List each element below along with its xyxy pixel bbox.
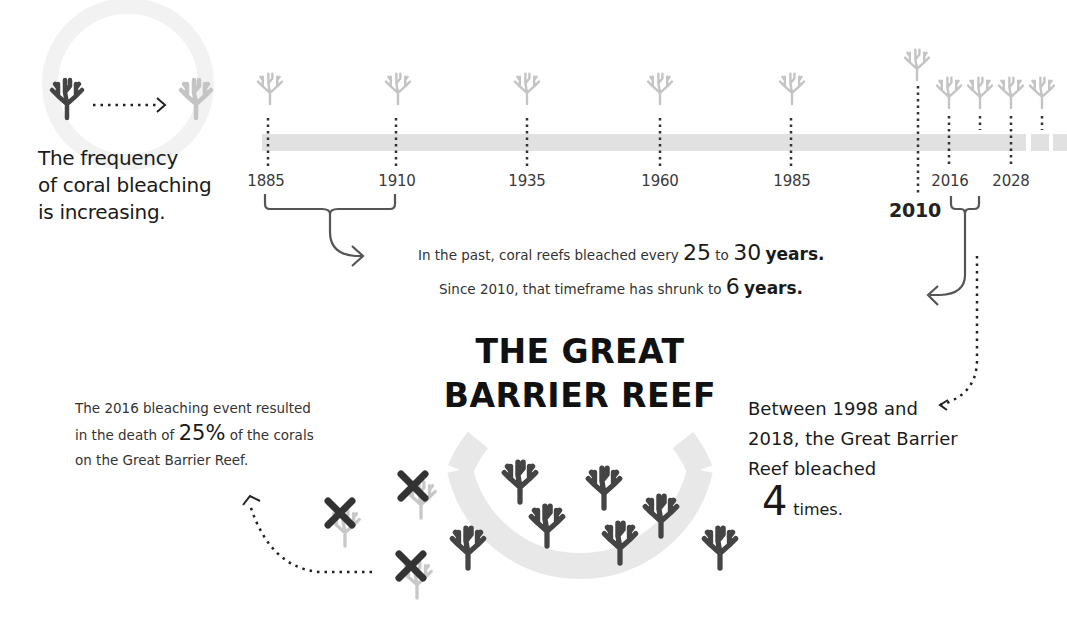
tick-label: 1935: [508, 172, 545, 190]
note-text: in the death of: [75, 427, 174, 443]
intro-line: of coral bleaching: [38, 172, 211, 199]
tick-label: 2016: [931, 172, 968, 190]
tick-label: 1885: [247, 172, 284, 190]
page-title: THE GREAT BARRIER REEF: [430, 330, 730, 418]
tick-label: 1985: [773, 172, 810, 190]
message-text: to: [715, 247, 729, 263]
note-number: 4: [762, 478, 787, 524]
tick-label: 1910: [378, 172, 415, 190]
timeline-coral-icons: [258, 50, 1054, 108]
title-line: THE GREAT: [430, 330, 730, 374]
dotted-arrow-to-right-note: [940, 256, 977, 410]
note-line: Between 1998 and: [748, 394, 958, 424]
tick-label: 1960: [641, 172, 678, 190]
infographic-graphics: [0, 0, 1067, 641]
tick-label: 2028: [992, 172, 1029, 190]
highlight-year-label: 2010: [889, 199, 941, 221]
message-text: Since 2010, that timeframe has shrunk to: [439, 281, 721, 297]
timeline-bar: [262, 134, 1067, 151]
message-line-1: In the past, coral reefs bleached every …: [418, 240, 825, 265]
message-text: In the past, coral reefs bleached every: [418, 247, 679, 263]
note-text: times.: [793, 500, 843, 519]
dotted-arrow-icon: [93, 98, 165, 112]
title-line: BARRIER REEF: [430, 374, 730, 418]
note-line: on the Great Barrier Reef.: [75, 448, 314, 473]
intro-line: The frequency: [38, 145, 211, 172]
message-number: 6: [726, 274, 740, 299]
message-text: years.: [744, 278, 803, 298]
dead-coral-group: [328, 474, 435, 598]
intro-text: The frequency of coral bleaching is incr…: [38, 145, 211, 226]
dotted-arrow-to-left-note: [243, 496, 372, 572]
note-text: of the corals: [230, 427, 314, 443]
left-note: The 2016 bleaching event resulted in the…: [75, 396, 314, 473]
note-line: The 2016 bleaching event resulted: [75, 396, 314, 421]
intro-line: is increasing.: [38, 199, 211, 226]
note-line: 2018, the Great Barrier: [748, 424, 958, 454]
message-line-2: Since 2010, that timeframe has shrunk to…: [439, 274, 803, 299]
note-line: in the death of 25% of the corals: [75, 421, 314, 448]
message-number: 25: [683, 240, 711, 265]
note-line: 4 times.: [748, 484, 958, 525]
right-note: Between 1998 and 2018, the Great Barrier…: [748, 394, 958, 525]
message-text: years.: [765, 244, 824, 264]
message-number: 30: [733, 240, 761, 265]
note-number: 25%: [179, 421, 226, 445]
bracket-arrow-past: [265, 194, 395, 266]
